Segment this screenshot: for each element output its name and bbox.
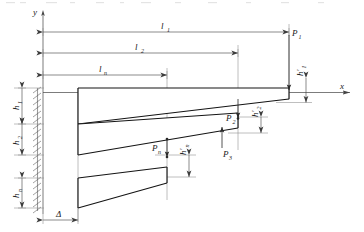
x-axis-label: x	[339, 81, 344, 91]
label-l1-sub: 1	[167, 27, 170, 33]
dimension-ln-label: l n	[99, 64, 107, 76]
label-l1: l	[161, 21, 164, 31]
dimension-l2-label: l 2	[135, 42, 144, 54]
label-Pn: P	[151, 143, 158, 153]
label-delta: Δ	[55, 209, 61, 219]
leaf-n	[78, 167, 167, 208]
label-hn: h	[11, 193, 21, 198]
label-l2: l	[135, 42, 138, 52]
dimension-hn	[18, 178, 26, 208]
label-ln-sub: n	[104, 70, 107, 76]
load-Pn-label: P n	[151, 143, 161, 155]
label-h1-sub: 1	[17, 101, 23, 104]
y-axis	[41, 10, 45, 214]
dimension-hn-label: h n	[11, 189, 23, 198]
label-P2-sub: 2	[233, 119, 236, 125]
dimension-h1-label: h 1	[11, 101, 23, 110]
label-h2-sub: 2	[17, 136, 23, 139]
label-P3: P	[222, 149, 229, 159]
label-ln: l	[99, 64, 102, 74]
figure-container: y x	[0, 0, 364, 232]
fixed-support-wall	[33, 87, 41, 213]
label-h1-prime-sub: 1	[301, 66, 307, 69]
dimension-hn-prime-label: h′ n	[178, 145, 190, 156]
label-Pn-sub: n	[158, 149, 161, 155]
label-P3-sub: 3	[228, 155, 232, 161]
dimension-h2-prime-label: h′ 2	[250, 107, 262, 118]
label-P1: P	[291, 28, 298, 38]
dimension-l1	[43, 28, 289, 36]
dimension-h2-label: h 2	[11, 136, 23, 145]
label-hn-prime-sub: n	[184, 145, 190, 148]
label-h2: h	[11, 140, 21, 145]
label-l2-sub: 2	[141, 48, 144, 54]
label-hn-sub: n	[17, 189, 23, 192]
label-P2: P	[225, 113, 232, 123]
dimension-l1-label: l 1	[161, 21, 170, 33]
leaf-spring-diagram: y x	[0, 0, 364, 232]
y-axis-label: y	[32, 7, 37, 17]
scan-noise	[6, 2, 324, 3]
dimension-h1-prime-label: h′ 1	[295, 66, 307, 77]
load-P1-label: P 1	[291, 28, 302, 40]
load-P3-label: P 3	[222, 149, 232, 161]
label-P1-sub: 1	[299, 34, 302, 40]
label-h1: h	[11, 105, 21, 110]
label-h2-prime-sub: 2	[256, 107, 262, 110]
label-h2-prime: h′	[250, 110, 260, 118]
label-h1-prime: h′	[295, 69, 305, 77]
label-hn-prime: h′	[178, 148, 188, 156]
